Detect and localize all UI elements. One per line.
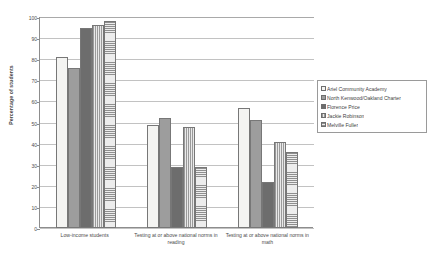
legend-label-3: Florence Price: [327, 104, 360, 110]
y-tick-label-40: 40: [31, 142, 37, 148]
y-tick-label-80: 80: [31, 57, 37, 63]
legend-item-1[interactable]: Ariel Community Academy: [321, 84, 424, 93]
legend-swatch-5: [321, 122, 326, 127]
plot-area: 1009080706050403020100: [39, 17, 313, 228]
y-tick-label-0: 0: [34, 226, 37, 232]
bar-1-1: [56, 57, 68, 228]
legend-swatch-3: [321, 104, 326, 109]
y-tick-label-10: 10: [31, 205, 37, 211]
legend-item-5[interactable]: Melville Fuller: [321, 120, 424, 129]
bar-3-5: [286, 152, 298, 228]
bar-groups: [40, 17, 314, 228]
bar-1-4: [92, 25, 104, 228]
legend-swatch-2: [321, 95, 326, 100]
legend-item-3[interactable]: Florence Price: [321, 102, 424, 111]
legend-item-4[interactable]: Jackie Robinson: [321, 111, 424, 120]
bar-3-3: [262, 182, 274, 228]
legend-label-4: Jackie Robinson: [327, 113, 364, 119]
y-tick-label-100: 100: [29, 15, 37, 21]
gridline-0: 0: [40, 228, 314, 229]
bar-3-4: [274, 142, 286, 229]
legend-label-1: Ariel Community Academy: [327, 86, 387, 92]
bar-2-3: [171, 167, 183, 228]
legend-swatch-1: [321, 86, 326, 91]
y-tick-label-50: 50: [31, 121, 37, 127]
legend: Ariel Community AcademyNorth Kenwood/Oak…: [317, 80, 427, 133]
category-label-1: Low-income students: [39, 232, 130, 258]
bar-1-3: [80, 28, 92, 228]
y-tick-label-70: 70: [31, 78, 37, 84]
category-labels: Low-income studentsTesting at or above n…: [39, 232, 313, 258]
bar-1-2: [68, 68, 80, 228]
bar-group-2: [131, 17, 222, 228]
bar-3-1: [238, 108, 250, 228]
bar-2-2: [159, 118, 171, 228]
bar-1-5: [104, 21, 116, 228]
category-label-3: Testing at or above national norms in ma…: [222, 232, 313, 258]
legend-swatch-4: [321, 113, 326, 118]
category-label-2: Testing at or above national norms in re…: [130, 232, 221, 258]
y-tick-label-90: 90: [31, 36, 37, 42]
bar-group-1: [40, 17, 131, 228]
legend-label-5: Melville Fuller: [327, 122, 358, 128]
y-tick-label-20: 20: [31, 184, 37, 190]
y-axis-title: Percentage of students: [8, 40, 14, 150]
y-tick-label-60: 60: [31, 99, 37, 105]
bar-group-3: [223, 17, 314, 228]
bar-2-5: [195, 167, 207, 228]
legend-label-2: North Kenwood/Oakland Charter: [327, 95, 401, 101]
bar-2-4: [183, 127, 195, 228]
y-tickmark-0: [37, 229, 40, 230]
y-tick-label-30: 30: [31, 163, 37, 169]
bar-2-1: [147, 125, 159, 228]
legend-item-2[interactable]: North Kenwood/Oakland Charter: [321, 93, 424, 102]
bar-chart: Percentage of students 10090807060504030…: [0, 0, 431, 266]
bar-3-2: [250, 120, 262, 228]
